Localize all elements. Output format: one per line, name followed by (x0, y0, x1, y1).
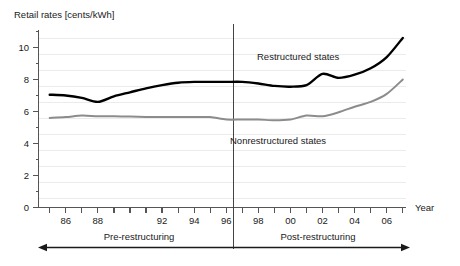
y-tick-label-0: 0 (24, 202, 29, 213)
x-tick-label-2000: 00 (285, 215, 296, 226)
pre-restructuring-label: Pre-restructuring (104, 231, 175, 242)
x-axis-title: Year (415, 202, 434, 213)
y-tick-label-6: 6 (24, 106, 29, 117)
y-axis-title: Retail rates [cents/kWh] (14, 9, 114, 20)
chart-figure: Retail rates [cents/kWh] (0, 0, 460, 266)
restructured-series-label: Restructured states (257, 51, 340, 62)
x-tick-label-1986: 86 (60, 215, 71, 226)
x-tick-label-2002: 02 (317, 215, 328, 226)
x-tick-label-1998: 98 (253, 215, 264, 226)
y-tick-label-2: 2 (24, 170, 29, 181)
post-restructuring-label: Post-restructuring (281, 231, 356, 242)
x-tick-label-2006: 06 (381, 215, 392, 226)
x-tick-label-1994: 94 (189, 215, 200, 226)
x-tick-label-1992: 92 (157, 215, 168, 226)
x-tick-label-2004: 04 (349, 215, 360, 226)
y-tick-label-4: 4 (24, 138, 29, 149)
chart-background (0, 0, 460, 266)
y-tick-label-10: 10 (18, 42, 29, 53)
y-tick-label-8: 8 (24, 74, 29, 85)
x-tick-label-1988: 88 (93, 215, 104, 226)
x-tick-label-1996: 96 (221, 215, 232, 226)
retail-rates-line-chart: Retail rates [cents/kWh] (0, 0, 460, 266)
nonrestructured-series-label: Nonrestructured states (230, 135, 326, 146)
